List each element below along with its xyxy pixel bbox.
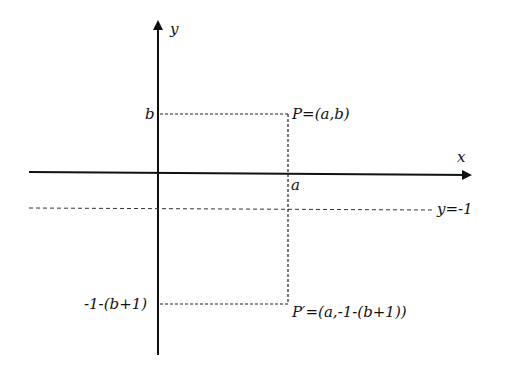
- line-y-minus-1: [29, 208, 432, 210]
- point-P-label: P=(a,b): [291, 105, 350, 123]
- tick-label-a: a: [291, 176, 300, 194]
- point-P-prime-label: P′=(a,-1-(b+1)): [291, 303, 407, 321]
- tick-label-reflected: -1-(b+1): [84, 295, 147, 313]
- x-axis-label: x: [457, 148, 466, 166]
- coordinate-diagram: y x b a P=(a,b) y=-1 -1-(b+1) P′=(a,-1-(…: [0, 0, 505, 378]
- x-axis: [29, 172, 470, 175]
- line-y-minus-1-label: y=-1: [436, 200, 473, 218]
- tick-label-b: b: [145, 105, 155, 123]
- y-axis-label: y: [169, 20, 179, 38]
